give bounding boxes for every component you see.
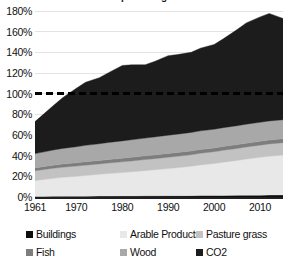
legend-item-co2[interactable]: CO2 <box>196 246 227 258</box>
legend-item-label: Fish <box>36 246 55 258</box>
legend-row-2: FishWoodCO2 <box>0 244 283 261</box>
legend-swatch-icon <box>196 231 203 238</box>
legend-item-fish[interactable]: Fish <box>26 246 55 258</box>
legend-item-label: CO2 <box>206 246 227 258</box>
legend-item-label: Buildings <box>36 228 76 240</box>
legend-row-1: BuildingsArable ProductsPasture grass <box>0 226 283 243</box>
x-axis-tick-label: 1961 <box>24 201 46 213</box>
stacked-area-plot <box>35 11 283 197</box>
legend-item-buildings[interactable]: Buildings <box>26 228 76 240</box>
legend-swatch-icon <box>26 249 33 256</box>
y-axis-tick-label: 40% <box>12 151 32 162</box>
x-axis-tick-label: 1990 <box>157 201 179 213</box>
legend-item-label: Wood <box>130 246 156 258</box>
x-axis-tick-label: 1980 <box>111 201 133 213</box>
legend-swatch-icon <box>120 249 127 256</box>
y-axis-tick-label: 180% <box>6 6 32 17</box>
legend-item-label: Pasture grass <box>206 228 267 240</box>
legend-item-arable-products[interactable]: Arable Products <box>120 228 200 240</box>
legend-item-pasture-grass[interactable]: Pasture grass <box>196 228 267 240</box>
x-axis-tick-label: 1970 <box>65 201 87 213</box>
chart-title: Resource use as a percentage of 1961 bas… <box>0 0 283 2</box>
legend-swatch-icon <box>120 231 127 238</box>
y-axis-tick-label: 100% <box>6 89 32 100</box>
y-axis-tick-label: 140% <box>6 47 32 58</box>
legend-swatch-icon <box>196 249 203 256</box>
x-axis: 196119701980199020002010 <box>0 201 283 219</box>
y-axis-tick-label: 120% <box>6 68 32 79</box>
plot-area <box>35 11 283 197</box>
legend-swatch-icon <box>26 231 33 238</box>
y-axis-tick-label: 60% <box>12 130 32 141</box>
y-axis-tick-label: 20% <box>12 171 32 182</box>
chart-legend: BuildingsArable ProductsPasture grass Fi… <box>0 226 283 264</box>
legend-item-wood[interactable]: Wood <box>120 246 156 258</box>
x-axis-tick-label: 2010 <box>249 201 271 213</box>
x-axis-tick-label: 2000 <box>203 201 225 213</box>
y-axis: 180%160%140%120%100%80%60%40%20%0% <box>0 0 34 208</box>
x-axis-line <box>35 197 283 199</box>
y-axis-tick-label: 160% <box>6 27 32 38</box>
legend-item-label: Arable Products <box>130 228 200 240</box>
y-axis-tick-label: 80% <box>12 109 32 120</box>
chart-container: Resource use as a percentage of 1961 bas… <box>0 0 283 264</box>
